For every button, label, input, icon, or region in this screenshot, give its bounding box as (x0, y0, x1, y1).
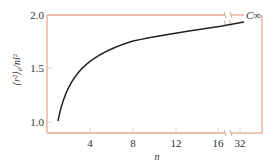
axis-break-marks (224, 12, 232, 136)
y-tick-2.0: 2.0 (30, 9, 44, 21)
x-tick-8: 8 (130, 137, 136, 149)
c-infinity-label: C∞ (246, 9, 261, 21)
x-tick-32: 32 (235, 137, 246, 149)
y-ticks (47, 68, 52, 122)
y-tick-labels: 2.0 1.5 1.0 (30, 9, 44, 128)
chart: 2.0 1.5 1.0 4 8 12 16 32 n ⟨r²⟩₀/nl² C∞ (0, 0, 274, 165)
x-ticks (90, 128, 240, 133)
x-tick-12: 12 (171, 137, 182, 149)
plot-frame (47, 15, 262, 133)
x-tick-16: 16 (213, 137, 225, 149)
x-tick-labels: 4 8 12 16 32 (87, 137, 245, 149)
y-tick-1.5: 1.5 (30, 62, 44, 74)
data-line (58, 22, 244, 121)
y-axis-title: ⟨r²⟩₀/nl² (11, 53, 22, 86)
x-tick-4: 4 (87, 137, 93, 149)
x-axis-title: n (155, 151, 160, 162)
y-tick-1.0: 1.0 (30, 116, 44, 128)
